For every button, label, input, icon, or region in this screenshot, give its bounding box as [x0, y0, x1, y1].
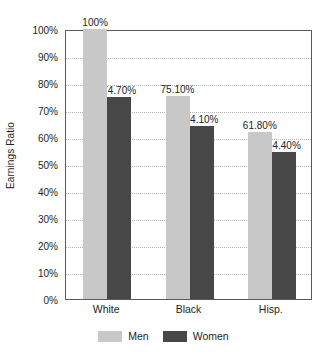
bar — [272, 152, 296, 299]
bar-group — [83, 31, 131, 299]
legend-swatch-icon — [163, 331, 187, 342]
bar — [190, 126, 214, 299]
bar — [107, 97, 131, 299]
bar — [248, 132, 272, 299]
legend-swatch-icon — [98, 331, 122, 342]
legend-item[interactable]: Men — [98, 330, 148, 342]
bar-group — [166, 31, 214, 299]
bar — [83, 29, 107, 299]
chart-legend: MenWomen — [0, 330, 327, 342]
bars-layer: 100%74.70%75.10%64.10%61.80%54.40% — [66, 31, 311, 299]
y-axis-tick-labels: 0%10%20%30%40%50%60%70%80%90%100% — [18, 24, 62, 300]
bar-group — [248, 31, 296, 299]
legend-label: Women — [193, 330, 229, 342]
x-axis-category-labels: WhiteBlackHisp. — [65, 303, 312, 321]
bar-chart: Earnings Ratio 0%10%20%30%40%50%60%70%80… — [0, 0, 327, 364]
y-axis-tick-label: 100% — [32, 25, 58, 36]
bar — [166, 96, 190, 299]
y-axis-tick-label: 30% — [38, 214, 58, 225]
y-axis-tick-label: 50% — [38, 160, 58, 171]
y-axis-tick-label: 40% — [38, 187, 58, 198]
x-axis-category-label: White — [93, 303, 120, 315]
y-axis-tick-label: 0% — [44, 295, 58, 306]
y-axis-title: Earnings Ratio — [0, 0, 20, 310]
x-axis-category-label: Black — [176, 303, 202, 315]
x-axis-category-label: Hisp. — [259, 303, 283, 315]
y-axis-tick-label: 90% — [38, 52, 58, 63]
bar-value-label: 100% — [82, 17, 108, 28]
y-axis-tick-label: 20% — [38, 241, 58, 252]
y-axis-tick-label: 70% — [38, 106, 58, 117]
y-axis-tick-label: 80% — [38, 79, 58, 90]
legend-label: Men — [128, 330, 148, 342]
legend-item[interactable]: Women — [163, 330, 229, 342]
y-axis-title-text: Earnings Ratio — [5, 122, 16, 189]
y-axis-tick-label: 60% — [38, 133, 58, 144]
plot-area: 100%74.70%75.10%64.10%61.80%54.40% — [65, 30, 312, 300]
y-axis-tick-label: 10% — [38, 268, 58, 279]
